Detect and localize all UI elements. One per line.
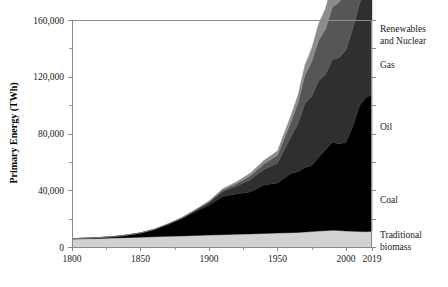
y-tick-label: 40,000 [38, 186, 64, 196]
series-labels-group: Renewablesand NuclearGasOilCoalTradition… [380, 24, 427, 252]
stacked-areas-group [72, 0, 372, 247]
x-tick-label: 2019 [363, 254, 382, 264]
series-label-renewables-and-nuclear-line2: and Nuclear [380, 36, 427, 46]
x-tick-label: 1800 [63, 254, 82, 264]
series-label-traditional-biomass-line2: biomass [380, 242, 411, 252]
x-tick-label: 1950 [268, 254, 287, 264]
x-tick-label: 1900 [199, 254, 218, 264]
y-tick-label: 160,000 [33, 16, 64, 26]
x-axis-ticks-group: 180018501900195020002019 [63, 247, 382, 264]
x-tick-label: 1850 [131, 254, 150, 264]
y-tick-label: 80,000 [38, 129, 64, 139]
right-axis-ticks-group [372, 21, 376, 248]
x-tick-label: 2000 [336, 254, 355, 264]
y-tick-label: 0 [59, 243, 64, 253]
y-axis-title: Primary Energy (TWh) [8, 82, 20, 183]
primary-energy-stacked-area-chart: 040,00080,000120,000160,000 180018501900… [0, 0, 448, 287]
series-label-traditional-biomass: Traditional [380, 230, 422, 240]
y-tick-label: 120,000 [33, 72, 64, 82]
chart-figure: 040,00080,000120,000160,000 180018501900… [0, 0, 448, 287]
series-label-gas: Gas [380, 60, 395, 70]
series-label-renewables-and-nuclear: Renewables [380, 24, 426, 34]
series-label-coal: Coal [380, 195, 398, 205]
series-label-oil: Oil [380, 122, 393, 132]
y-axis-ticks-group: 040,00080,000120,000160,000 [33, 16, 72, 253]
